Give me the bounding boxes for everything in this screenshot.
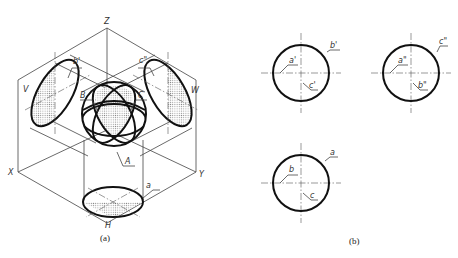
top-outline-label: a <box>330 148 335 157</box>
h-plane-projection <box>83 187 143 218</box>
v-plane-label: V <box>23 85 29 94</box>
top-inner-2-label: c <box>310 191 315 200</box>
isometric-view: Z X Y V W H B C A b' c" a (a) <box>7 17 205 243</box>
a-label: a <box>146 181 151 190</box>
point-b-label: B <box>80 91 86 100</box>
front-inner-1-label: a' <box>289 56 296 65</box>
projection-diagram: Z X Y V W H B C A b' c" a (a) b' a' <box>0 0 458 258</box>
point-c-label: C <box>138 91 144 100</box>
top-inner-1-label: b <box>289 165 294 174</box>
b-prime-label: b' <box>73 57 80 66</box>
front-view: b' a' c' <box>261 33 341 113</box>
front-outline-label: b' <box>330 41 337 50</box>
side-inner-2-label: b" <box>418 81 427 90</box>
side-inner-1-label: a" <box>398 56 407 65</box>
side-outline-label: c" <box>439 37 447 46</box>
c-double-prime-label: c" <box>139 56 147 65</box>
w-plane-label: W <box>191 86 200 95</box>
y-axis-label: Y <box>199 170 205 179</box>
caption-a: (a) <box>100 233 110 243</box>
front-inner-2-label: c' <box>309 81 316 90</box>
orthographic-views: b' a' c' c" a" b" a b c <box>261 33 451 246</box>
h-plane-label: H <box>105 221 111 230</box>
top-view: a b c <box>261 143 341 223</box>
caption-b: (b) <box>349 236 360 246</box>
z-axis-label: Z <box>103 17 110 26</box>
side-view: c" a" b" <box>371 33 451 113</box>
point-a-label: A <box>124 157 130 166</box>
x-axis-label: X <box>7 168 14 177</box>
